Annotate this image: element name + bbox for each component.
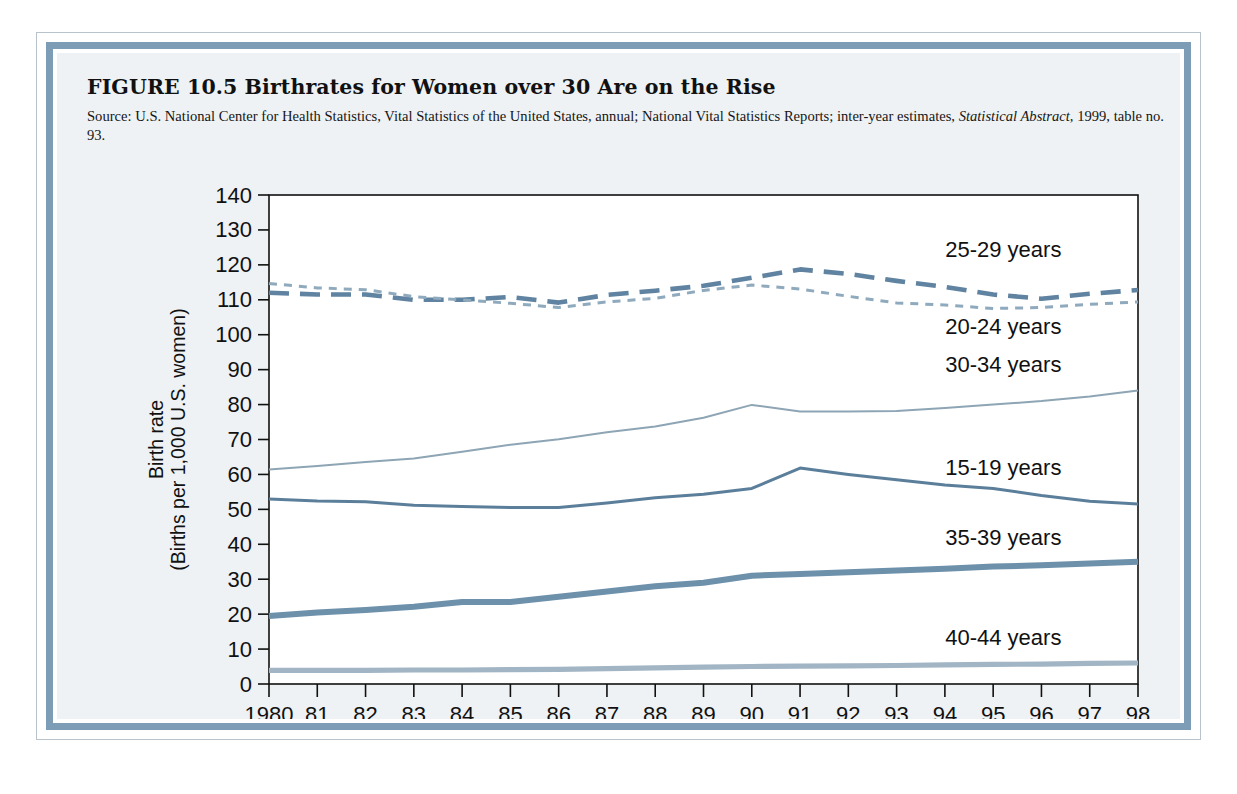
x-tick-label: 97 [1077, 702, 1101, 719]
x-tick-label: 96 [1029, 702, 1053, 719]
series-annotation-label: 20-24 years [945, 314, 1061, 339]
y-tick-label: 60 [228, 462, 252, 487]
x-tick-label: 82 [353, 702, 377, 719]
figure-content: FIGURE 10.5 Birthrates for Women over 30… [57, 53, 1180, 719]
y-tick-label: 100 [215, 322, 252, 347]
x-tick-label: 84 [450, 702, 474, 719]
x-tick-label: 89 [691, 702, 715, 719]
y-axis-title-line2: (Births per 1,000 U.S. women) [167, 308, 189, 570]
series-annotation-label: 35-39 years [945, 525, 1061, 550]
x-tick-label: 88 [643, 702, 667, 719]
x-tick-label: 86 [546, 702, 570, 719]
series-annotation-label: 25-29 years [945, 237, 1061, 262]
x-tick-label: 95 [981, 702, 1005, 719]
y-tick-label: 30 [228, 567, 252, 592]
y-tick-label: 10 [228, 637, 252, 662]
y-axis-title-line1: Birth rate [145, 400, 167, 479]
x-tick-label: 94 [933, 702, 957, 719]
series-annotation-label: 15-19 years [945, 455, 1061, 480]
series-annotation-label: 30-34 years [945, 352, 1061, 377]
figure-blue-border: FIGURE 10.5 Birthrates for Women over 30… [46, 42, 1191, 730]
x-tick-label: 93 [884, 702, 908, 719]
y-tick-label: 90 [228, 357, 252, 382]
y-tick-label: 40 [228, 532, 252, 557]
series-annotation-label: 40-44 years [945, 625, 1061, 650]
line-chart: 0102030405060708090100110120130140198081… [57, 53, 1180, 719]
figure-outer-frame: FIGURE 10.5 Birthrates for Women over 30… [36, 32, 1201, 740]
x-tick-label: 87 [595, 702, 619, 719]
chart-plot-area: 0102030405060708090100110120130140198081… [57, 53, 1180, 719]
x-tick-label: 81 [305, 702, 329, 719]
figure-white-border: FIGURE 10.5 Birthrates for Women over 30… [53, 49, 1184, 723]
x-tick-label: 98 [1126, 702, 1150, 719]
x-tick-label: 1980 [245, 702, 294, 719]
y-tick-label: 20 [228, 602, 252, 627]
x-tick-label: 90 [740, 702, 764, 719]
y-tick-label: 80 [228, 392, 252, 417]
y-tick-label: 120 [215, 252, 252, 277]
figure-page: FIGURE 10.5 Birthrates for Women over 30… [0, 0, 1237, 794]
x-tick-label: 91 [788, 702, 812, 719]
x-tick-label: 83 [402, 702, 426, 719]
x-tick-label: 85 [498, 702, 522, 719]
y-tick-label: 70 [228, 427, 252, 452]
x-tick-label: 92 [836, 702, 860, 719]
y-tick-label: 50 [228, 497, 252, 522]
y-tick-label: 130 [215, 217, 252, 242]
y-tick-label: 0 [240, 672, 252, 697]
y-tick-label: 110 [217, 287, 252, 312]
y-tick-label: 140 [215, 183, 252, 208]
